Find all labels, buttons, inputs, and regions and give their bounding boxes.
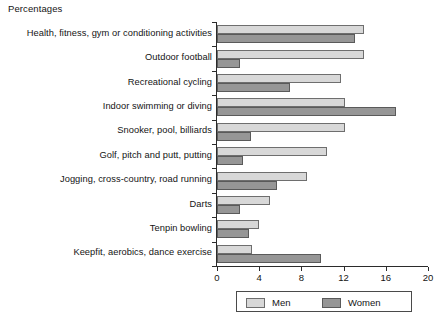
x-axis-tick (217, 267, 218, 271)
bar-men (217, 172, 307, 181)
footer-artifact (0, 324, 446, 331)
x-axis-tick-label: 12 (338, 272, 349, 283)
chart-legend: MenWomen (236, 291, 412, 312)
y-axis-tick (212, 144, 216, 145)
bar-men (217, 50, 364, 59)
chart-title: Percentages (8, 3, 62, 14)
category-label: Darts (190, 199, 212, 209)
category-label: Health, fitness, gym or conditioning act… (27, 28, 212, 38)
bar-men (217, 147, 327, 156)
bar-women (217, 132, 251, 141)
y-axis-tick (212, 22, 216, 23)
y-axis-tick (212, 242, 216, 243)
bar-women (217, 181, 277, 190)
bar-men (217, 98, 345, 107)
y-axis-tick (212, 46, 216, 47)
y-axis-tick (212, 95, 216, 96)
y-axis-tick (212, 71, 216, 72)
x-axis-tick-label: 4 (257, 272, 262, 283)
bar-women (217, 229, 249, 238)
category-label: Indoor swimming or diving (103, 101, 212, 111)
x-axis-tick-label: 0 (214, 272, 219, 283)
legend-item-women[interactable]: Women (322, 296, 381, 309)
bar-men (217, 25, 364, 34)
category-label: Snooker, pool, billiards (117, 125, 212, 135)
bar-women (217, 107, 396, 116)
bar-women (217, 34, 355, 43)
y-axis-tick (212, 120, 216, 121)
category-label: Keepfit, aerobics, dance exercise (73, 247, 212, 257)
legend-label: Women (348, 297, 381, 308)
percentages-bar-chart: Percentages 048121620 MenWomen Health, f… (0, 0, 446, 331)
y-axis-tick (212, 193, 216, 194)
legend-item-men[interactable]: Men (246, 296, 290, 309)
bar-women (217, 83, 290, 92)
x-axis-tick (428, 267, 429, 271)
bar-women (217, 156, 243, 165)
legend-label: Men (272, 297, 290, 308)
legend-swatch-women-icon (322, 298, 341, 308)
x-axis-tick-label: 20 (423, 272, 434, 283)
y-axis-tick (212, 168, 216, 169)
legend-swatch-men-icon (246, 298, 265, 308)
plot-area: 048121620 (216, 22, 428, 266)
bar-men (217, 123, 345, 132)
category-label: Tenpin bowling (150, 223, 212, 233)
x-axis-tick-label: 8 (299, 272, 304, 283)
x-axis-tick (301, 267, 302, 271)
x-axis-line (216, 266, 428, 267)
bar-men (217, 74, 341, 83)
x-axis-tick (386, 267, 387, 271)
x-axis-tick (344, 267, 345, 271)
category-label: Golf, pitch and putt, putting (99, 150, 212, 160)
category-label: Recreational cycling (128, 77, 212, 87)
x-axis-tick-label: 16 (381, 272, 392, 283)
category-label: Outdoor football (145, 52, 212, 62)
y-axis-tick (212, 217, 216, 218)
bar-women (217, 205, 240, 214)
category-label: Jogging, cross-country, road running (60, 174, 212, 184)
y-axis-tick (212, 266, 216, 267)
x-axis-tick (259, 267, 260, 271)
bar-women (217, 59, 240, 68)
bar-men (217, 245, 252, 254)
bar-men (217, 196, 270, 205)
bar-men (217, 220, 259, 229)
bar-women (217, 254, 321, 263)
